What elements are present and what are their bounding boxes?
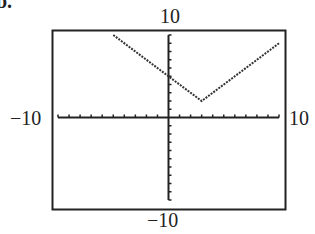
curve-series <box>113 35 279 101</box>
function-curve <box>113 35 279 101</box>
graphing-calculator-screen <box>0 0 315 234</box>
axes <box>58 35 279 200</box>
